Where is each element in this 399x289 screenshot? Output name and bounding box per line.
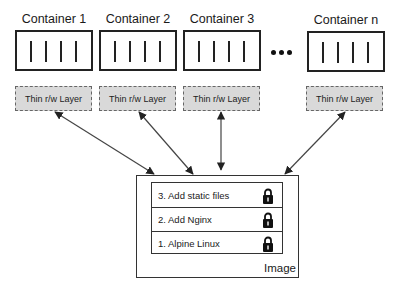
image-layer-label: 1. Alpine Linux	[158, 238, 220, 249]
container-3-title: Container 3	[177, 12, 267, 26]
layer-bar	[367, 42, 369, 63]
image-layer-3: 3. Add static files	[152, 183, 282, 207]
container-1-box	[15, 30, 93, 71]
layer-bar	[228, 41, 230, 62]
image-layers-stack: 3. Add static files 2. Add Nginx 1. Alpi…	[151, 182, 283, 254]
dot	[279, 50, 284, 55]
lock-icon	[262, 212, 274, 228]
container-1-title: Container 1	[9, 12, 99, 26]
dot	[271, 50, 276, 55]
arrow-containern-image	[285, 112, 345, 174]
ellipsis	[271, 50, 292, 55]
image-layer-2: 2. Add Nginx	[152, 207, 282, 231]
lock-icon	[262, 188, 274, 204]
layer-bar	[198, 41, 200, 62]
layer-bar	[352, 42, 354, 63]
container-3-box	[183, 30, 261, 71]
layer-bar	[144, 41, 146, 62]
layer-bar	[45, 41, 47, 62]
container-2-title: Container 2	[93, 12, 183, 26]
layer-bar	[322, 42, 324, 63]
thin-rw-layer-2: Thin r/w Layer	[99, 86, 176, 111]
layer-bar	[243, 41, 245, 62]
image-label: Image	[264, 262, 296, 274]
layer-bar	[75, 41, 77, 62]
container-n-box	[307, 31, 385, 72]
image-box: 3. Add static files 2. Add Nginx 1. Alpi…	[136, 175, 299, 278]
thin-rw-layer-n: Thin r/w Layer	[306, 86, 383, 111]
layer-bar	[213, 41, 215, 62]
image-layer-label: 2. Add Nginx	[158, 214, 212, 225]
layer-bar	[129, 41, 131, 62]
arrow-container2-image	[139, 112, 193, 174]
thin-rw-layer-1: Thin r/w Layer	[15, 86, 92, 111]
image-layer-1: 1. Alpine Linux	[152, 231, 282, 255]
layer-bar	[159, 41, 161, 62]
container-2-box	[99, 30, 177, 71]
layer-bar	[30, 41, 32, 62]
layer-bar	[60, 41, 62, 62]
layer-bar	[114, 41, 116, 62]
arrow-container1-image	[55, 112, 154, 174]
layer-bar	[337, 42, 339, 63]
lock-icon	[262, 236, 274, 252]
image-layer-label: 3. Add static files	[158, 190, 229, 201]
dot	[287, 50, 292, 55]
container-n-title: Container n	[301, 13, 391, 27]
thin-rw-layer-3: Thin r/w Layer	[183, 86, 260, 111]
